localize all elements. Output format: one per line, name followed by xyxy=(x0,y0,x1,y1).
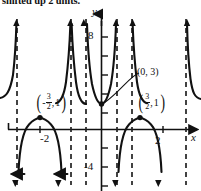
point-3over2-1 xyxy=(137,115,142,120)
point-label-0-3: (0, 3) xyxy=(137,67,159,77)
y-axis-label: y xyxy=(92,6,97,17)
y-tick-label-8: 8 xyxy=(88,30,94,41)
close-paren: ) xyxy=(160,93,165,111)
y-value: 1 xyxy=(154,97,159,108)
x-tick-label-2: 2 xyxy=(155,135,161,146)
curve-branches xyxy=(0,24,201,174)
point-label-3over2-1: ( 3 2 , 1 ) xyxy=(137,93,166,111)
comma: , xyxy=(150,97,153,108)
branch-left-arch xyxy=(19,118,62,172)
comma: , xyxy=(52,97,55,108)
open-paren: ( xyxy=(36,93,41,111)
close-paren: ) xyxy=(62,93,67,111)
point-0-3 xyxy=(99,101,104,106)
y-value: 1 xyxy=(55,97,60,108)
y-tick-label-neg4: -4 xyxy=(84,161,93,172)
point-neg3over2-1 xyxy=(37,115,42,120)
open-paren: ( xyxy=(138,93,143,111)
x-axis-label: x xyxy=(191,132,196,143)
figure-container: shifted up 2 units. xyxy=(0,0,201,191)
branch-left-outer xyxy=(0,24,16,98)
branch-left-U xyxy=(72,24,86,104)
function-graph xyxy=(0,0,201,191)
y-axis-ticks xyxy=(102,37,109,186)
x-tick-label-neg2: -2 xyxy=(40,133,49,144)
x-axis xyxy=(8,123,197,130)
point-label-neg3over2-1: ( - 3 2 , 1 ) xyxy=(35,93,68,111)
